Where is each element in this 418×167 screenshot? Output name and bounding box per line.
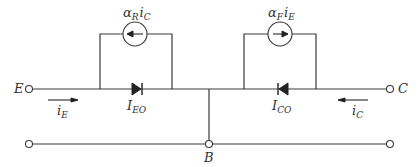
emitter-terminal — [26, 86, 33, 93]
collector-diode-label: ICO — [271, 98, 292, 115]
collector-terminal — [387, 86, 394, 93]
base-label: B — [203, 150, 214, 165]
emitter-diode-icon — [132, 83, 142, 95]
collector-diode-icon — [278, 83, 288, 95]
collector-label: C — [398, 81, 408, 96]
reverse-source-label: αRiC — [123, 5, 151, 22]
circuit-diagram: E C B αRiC αFiE IEO ICO iE iC — [0, 0, 418, 167]
reverse-source-loop — [100, 22, 172, 89]
emitter-diode-label: IEO — [126, 98, 147, 115]
emitter-label: E — [13, 81, 24, 96]
forward-source-label: αFiE — [268, 5, 295, 22]
emitter-current-label: iE — [57, 103, 68, 120]
collector-current-label: iC — [352, 103, 363, 120]
forward-source-loop — [244, 22, 316, 89]
base-terminal — [206, 141, 213, 148]
bottom-right-terminal — [387, 141, 394, 148]
bottom-left-terminal — [26, 141, 33, 148]
emitter-current-arrow-icon — [48, 98, 78, 102]
collector-current-arrow-icon — [338, 98, 368, 102]
